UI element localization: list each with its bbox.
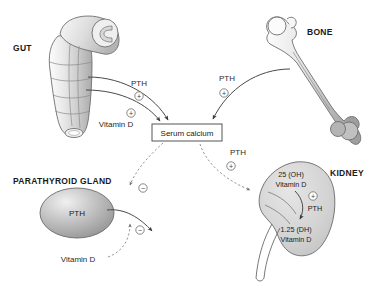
vitd-inhibit-sign-glyph: − [138,227,142,234]
calcium-inhibit-sign: − [139,184,147,192]
bone-condyle-2 [331,122,346,137]
bone-pth-sign-glyph: + [222,90,226,97]
vitamin-d-inhibits-pth-arrow [108,224,130,257]
kidney-product-line1: 1.25 (DH) [280,225,311,234]
bone-femoral-head [268,17,286,35]
bone-pth-sign: + [220,89,228,97]
vitamin-d-inhibit-label: Vitamin D [61,255,96,264]
serum-calcium-label: Serum calcium [161,129,214,138]
gut-vitamin-d-arrow [86,90,160,121]
kidney-pth-sign-glyph: + [229,163,233,170]
kidney-substrate-line1: 25 (OH) [278,170,304,179]
kidney-pth-label: PTH [230,148,246,157]
serum-calcium-node: Serum calcium [152,124,222,141]
kidney-label: KIDNEY [330,168,364,178]
calcium-inhibits-pth-arrow [130,143,163,185]
calcium-homeostasis-diagram: GUT BONE Serum calcium PTH + Vit [0,0,367,295]
gut-distal-lumen [69,131,80,136]
calcium-inhibit-sign-glyph: − [141,185,145,192]
gut-opening-outer [92,19,118,47]
kidney-product-line2: Vitamin D [280,235,311,244]
gut-pth-sign-glyph: + [137,93,141,100]
bone-label: BONE [307,27,333,37]
kidney-enzyme-label: PTH [308,204,322,213]
bone-pth-label: PTH [219,74,235,83]
gut-vitamin-d-label: Vitamin D [99,120,134,129]
gut-vitd-sign-glyph: + [129,110,133,117]
kidney-enzyme-sign-glyph: + [311,193,315,200]
vitamin-d-inhibit-sign: − [136,226,144,234]
parathyroid-pth-label: PTH [69,209,85,218]
kidney-ureter-tip [256,278,264,281]
diagram-canvas: GUT BONE Serum calcium PTH + Vit [0,0,367,295]
bone-shaft-line [293,52,330,110]
kidney-substrate-line2: Vitamin D [275,180,306,189]
gut-pth-sign: + [135,92,143,100]
kidney-pth-sign: + [227,162,235,170]
kidney-enzyme-sign: + [309,192,317,200]
gut-pth-label: PTH [131,79,147,88]
gut-vitamin-d-sign: + [127,109,135,117]
parathyroid-gland-label: PARATHYROID GLAND [13,176,112,186]
gut-label: GUT [13,43,32,53]
